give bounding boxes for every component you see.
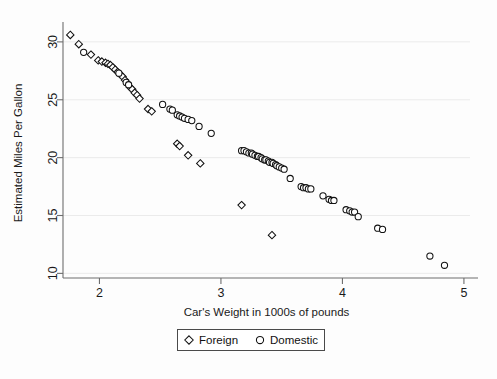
- data-point-foreign-25: [197, 160, 204, 167]
- series-foreign: [67, 31, 276, 239]
- data-point-domestic-4: [160, 101, 166, 107]
- legend-item-domestic: Domestic: [255, 334, 318, 346]
- y-tick-label-4: 30: [46, 35, 60, 49]
- data-point-domestic-12: [189, 117, 195, 123]
- data-point-foreign-2: [87, 51, 94, 58]
- y-axis-title: Estimated Miles Per Gallon: [12, 84, 24, 223]
- legend-label-domestic: Domestic: [270, 334, 318, 346]
- data-point-domestic-43: [320, 193, 326, 199]
- scatter-plot-figure: 10152025302345Car's Weight in 1000s of p…: [0, 0, 497, 379]
- plot-canvas: 10152025302345Car's Weight in 1000s of p…: [0, 0, 497, 379]
- data-point-domestic-3: [126, 82, 132, 88]
- data-point-domestic-1: [116, 70, 122, 76]
- data-point-domestic-55: [441, 262, 447, 268]
- data-point-foreign-27: [268, 231, 275, 238]
- diamond-marker-icon: [184, 335, 194, 345]
- data-point-domestic-6: [169, 107, 175, 113]
- chart-legend: Foreign Domestic: [177, 329, 325, 351]
- data-point-domestic-42: [308, 186, 314, 192]
- x-tick-label-3: 5: [460, 286, 467, 300]
- data-point-domestic-53: [379, 226, 385, 232]
- legend-item-foreign: Foreign: [184, 334, 238, 346]
- y-tick-label-1: 15: [46, 209, 60, 223]
- y-tick-label-3: 25: [46, 93, 60, 107]
- x-tick-label-2: 4: [339, 286, 346, 300]
- data-point-domestic-37: [287, 175, 293, 181]
- series-domestic: [81, 49, 448, 268]
- circle-marker-icon: [255, 335, 265, 345]
- data-point-domestic-13: [196, 123, 202, 129]
- legend-label-foreign: Foreign: [199, 334, 238, 346]
- x-tick-label-1: 3: [217, 286, 224, 300]
- data-point-foreign-26: [238, 201, 245, 208]
- data-point-domestic-14: [208, 130, 214, 136]
- data-point-domestic-0: [81, 49, 87, 55]
- y-tick-label-2: 20: [46, 151, 60, 165]
- data-point-domestic-51: [355, 214, 361, 220]
- x-tick-label-0: 2: [96, 286, 103, 300]
- y-tick-label-0: 10: [46, 266, 60, 280]
- data-point-foreign-0: [67, 31, 74, 38]
- x-axis-title: Car's Weight in 1000s of pounds: [184, 306, 350, 318]
- data-point-domestic-36: [281, 166, 287, 172]
- data-point-domestic-54: [427, 253, 433, 259]
- data-point-domestic-46: [331, 197, 337, 203]
